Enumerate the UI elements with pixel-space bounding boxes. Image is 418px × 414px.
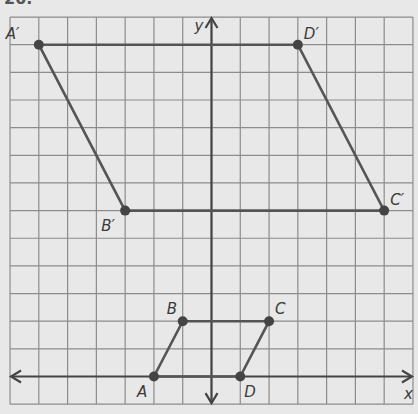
x-axis-label: x: [403, 385, 413, 403]
vertex-point: [235, 372, 245, 382]
vertex-point: [379, 206, 389, 216]
vertex-point: [34, 40, 44, 50]
coordinate-plane: xy ABCDA′B′C′D′: [0, 0, 418, 414]
vertex-point: [120, 206, 130, 216]
vertex-point: [293, 40, 303, 50]
parallelogram-abcd: A′B′C′D′: [5, 25, 405, 235]
vertex-label: C: [275, 300, 286, 318]
y-axis-label: y: [194, 17, 205, 35]
vertex-label: B: [167, 300, 177, 318]
parallelograms: ABCDA′B′C′D′: [5, 25, 405, 401]
vertex-label: A′: [5, 25, 20, 43]
vertex-label: C′: [390, 191, 404, 209]
vertex-label: D′: [304, 25, 320, 43]
vertex-label: A: [136, 383, 147, 401]
vertex-point: [264, 316, 274, 326]
vertex-label: B′: [101, 217, 115, 235]
vertex-point: [149, 372, 159, 382]
vertex-label: D: [244, 383, 256, 401]
vertex-point: [178, 316, 188, 326]
